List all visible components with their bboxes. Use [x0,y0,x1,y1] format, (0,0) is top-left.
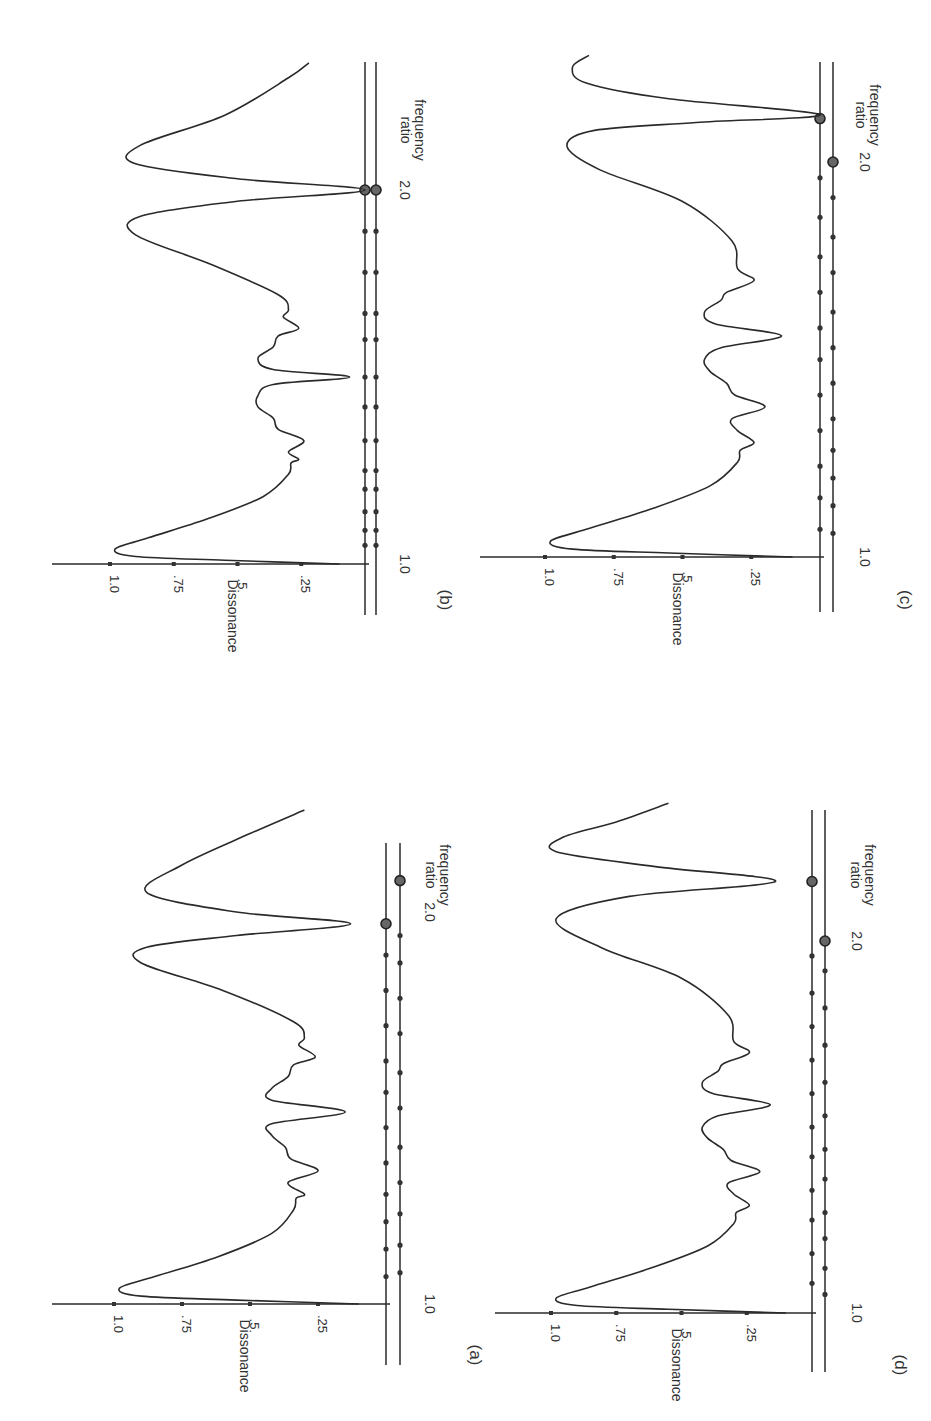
partial-marker [822,1292,827,1297]
partial-marker [397,1145,402,1150]
tick-mark [108,562,112,566]
tick-label: .25 [748,568,763,586]
freq-tick-2: 2.0 [857,152,873,172]
partial-marker [809,1091,814,1096]
partial-marker [397,1211,402,1216]
partial-marker [817,175,822,180]
panel-label: (c) [896,590,915,610]
partial-marker [373,528,378,533]
partial-marker [373,543,378,548]
partial-marker [373,404,378,409]
partial-marker [397,1243,402,1248]
partial-marker [822,968,827,973]
partial-marker [817,392,822,397]
partial-marker [383,1058,388,1063]
partial-marker [830,195,835,200]
partial-marker [397,933,402,938]
tick-label: 1.0 [107,575,122,593]
partial-marker [383,1274,388,1279]
tick-mark [543,555,547,559]
partial-marker [362,528,367,533]
octave-ring-marker [381,919,391,929]
figure-canvas: 1.0.75.5.25Dissonance1.02.0frequencyrati… [0,0,931,1421]
tick-label: .25 [315,1315,330,1333]
partial-marker [830,270,835,275]
partial-marker [362,374,367,379]
octave-ring-marker [828,157,838,167]
octave-ring-marker [371,185,381,195]
panel-label: (a) [466,1345,485,1366]
partial-marker [373,311,378,316]
partial-marker [397,1031,402,1036]
octave-ring-marker [820,936,830,946]
partial-marker [822,1176,827,1181]
x-axis-label-line2: ratio [848,861,864,888]
dissonance-curve [549,803,786,1313]
partial-marker [362,543,367,548]
partial-marker [830,234,835,239]
partial-marker [362,229,367,234]
partial-marker [809,1217,814,1222]
partial-marker [809,1124,814,1129]
partial-marker [817,527,822,532]
partial-marker [397,1105,402,1110]
partial-marker [822,1236,827,1241]
partial-marker [383,988,388,993]
tick-mark [112,1302,116,1306]
partial-marker [373,374,378,379]
freq-tick-1: 1.0 [849,1303,865,1323]
partial-marker [397,996,402,1001]
partial-marker [362,468,367,473]
partial-marker [817,290,822,295]
partial-marker [822,1147,827,1152]
partial-marker [830,416,835,421]
partial-marker [822,1043,827,1048]
partial-marker [809,1251,814,1256]
partial-marker [362,270,367,275]
partial-marker [817,215,822,220]
partial-marker [383,953,388,958]
tick-label: .25 [298,575,313,593]
tick-mark [236,562,240,566]
x-axis-label-line2: ratio [853,101,869,128]
tick-mark [680,1311,684,1315]
partial-marker [822,1210,827,1215]
tick-mark [180,1302,184,1306]
octave-ring-marker [395,876,405,886]
tick-label: .75 [179,1315,194,1333]
partial-marker [809,1281,814,1286]
partial-marker [822,1005,827,1010]
partial-marker [373,438,378,443]
panel-label: (d) [891,1355,910,1376]
partial-marker [397,1180,402,1185]
tick-mark [681,555,685,559]
partial-marker [830,503,835,508]
octave-ring-marker [807,876,817,886]
partial-marker [383,1247,388,1252]
panel-b: 1.0.75.5.25Dissonance1.02.0frequencyrati… [52,62,455,653]
partial-marker [397,1070,402,1075]
partial-marker [373,487,378,492]
tick-mark [612,555,616,559]
freq-tick-2: 2.0 [849,931,865,951]
tick-label: 1.0 [111,1315,126,1333]
tick-mark [549,1311,553,1315]
tick-label: .75 [171,575,186,593]
tick-mark [614,1311,618,1315]
panel-label: (b) [436,590,455,611]
partial-marker [362,487,367,492]
tick-label: .25 [744,1324,759,1342]
freq-tick-2: 2.0 [397,180,413,200]
partial-marker [383,1219,388,1224]
partial-marker [362,438,367,443]
partial-marker [362,509,367,514]
tick-label: .75 [611,568,626,586]
partial-marker [809,953,814,958]
partial-marker [373,229,378,234]
partial-marker [362,404,367,409]
partial-marker [362,337,367,342]
partial-marker [373,337,378,342]
x-axis-label-line2: ratio [423,861,439,888]
partial-marker [397,960,402,965]
partial-marker [830,531,835,536]
